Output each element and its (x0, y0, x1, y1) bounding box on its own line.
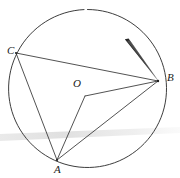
vertex-dot-B (157, 80, 159, 82)
vertex-dot-A (56, 159, 58, 161)
segment-CA (16, 53, 57, 160)
segment-CB (16, 53, 158, 81)
vertex-dot-C (15, 52, 17, 54)
segment-OB (85, 81, 158, 96)
main-circle (9, 9, 167, 167)
segment-OA (57, 96, 85, 160)
point-label-o: O (73, 78, 81, 89)
geometry-figure: C B O A (0, 0, 180, 178)
point-label-b: B (167, 72, 174, 83)
geometry-canvas (0, 0, 180, 178)
point-label-a: A (54, 164, 61, 175)
point-label-c: C (7, 45, 14, 56)
segment-AB (57, 81, 158, 160)
